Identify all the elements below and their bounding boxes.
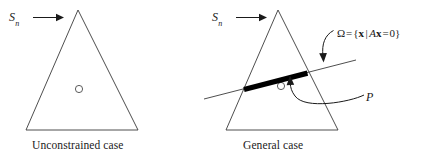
simplex-triangle-unconstrained: [26, 10, 138, 130]
figure-container: Sn Sn Ω = {x|Ax = 0} P Unconstrained cas…: [0, 0, 421, 161]
simplex-triangle-general: [226, 10, 338, 130]
omega-symbol: Ω: [337, 27, 345, 39]
omega-equals: =: [346, 27, 352, 39]
figure-canvas: [0, 0, 421, 161]
interior-point-marker-general: [277, 82, 284, 89]
p-polytope-label: P: [366, 90, 373, 105]
interior-point-marker-unconstrained: [75, 85, 82, 92]
sn-pointer-arrow-left: [33, 14, 64, 21]
sn-label-general: Sn: [212, 10, 222, 26]
caption-unconstrained: Unconstrained case: [32, 139, 124, 151]
caption-general: General case: [243, 139, 303, 151]
sn-label-unconstrained: Sn: [9, 10, 19, 26]
sn-subscript: n: [15, 19, 19, 28]
omega-matrix-a: A: [369, 27, 376, 39]
panel-unconstrained: [26, 10, 138, 130]
omega-close-brace: }: [395, 27, 400, 39]
sn-subscript: n: [218, 19, 222, 28]
omega-vector-x2: x: [376, 27, 382, 39]
omega-constraint-label: Ω = {x|Ax = 0}: [337, 27, 400, 39]
feasible-region-segment: [244, 73, 308, 89]
omega-callout-arrow: [319, 31, 333, 63]
sn-pointer-arrow-right: [236, 14, 267, 21]
omega-equals2: =: [382, 27, 388, 39]
p-callout-arrow: [287, 76, 364, 104]
